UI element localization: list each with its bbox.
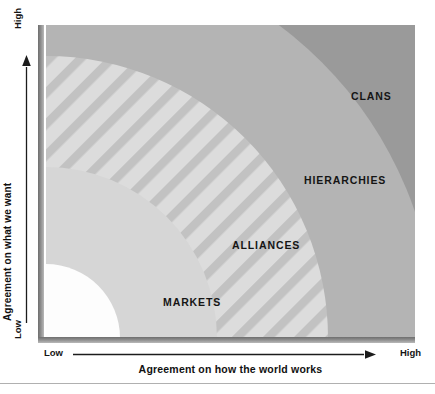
plot-area: CLANS HIERARCHIES ALLIANCES MARKETS SEPA… (46, 25, 415, 338)
zone-label-alliances: ALLIANCES (232, 240, 300, 251)
y-axis-title: Agreement on what we want (2, 183, 13, 321)
y-axis-tick-high: High (12, 8, 23, 29)
footer-divider (0, 383, 435, 384)
x-axis-tick-high: High (400, 347, 421, 358)
zone-label-markets: MARKETS (163, 297, 221, 308)
x-axis-group: Low High Agreement on how the world work… (38, 345, 423, 385)
y-axis-bar (38, 25, 44, 343)
zone-label-clans: CLANS (351, 91, 392, 102)
x-axis-title: Agreement on how the world works (38, 363, 423, 375)
y-axis-arrow-icon (22, 55, 31, 325)
x-axis-bar (38, 337, 415, 343)
y-axis-group: High Low Agreement on what we want (0, 25, 38, 343)
x-axis-arrow-icon (73, 350, 376, 359)
x-axis-tick-low: Low (44, 347, 63, 358)
zone-label-hierarchies: HIERARCHIES (304, 175, 386, 186)
agreement-matrix-diagram: CLANS HIERARCHIES ALLIANCES MARKETS SEPA… (0, 0, 435, 394)
